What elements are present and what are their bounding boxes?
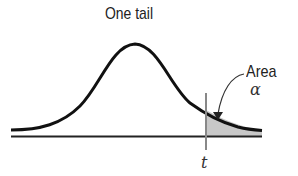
critical-t-label: t bbox=[201, 153, 207, 172]
area-pointer-arrow bbox=[218, 74, 244, 114]
alpha-label: α bbox=[250, 80, 261, 99]
bell-curve bbox=[11, 44, 262, 131]
area-label: Area bbox=[246, 62, 277, 82]
